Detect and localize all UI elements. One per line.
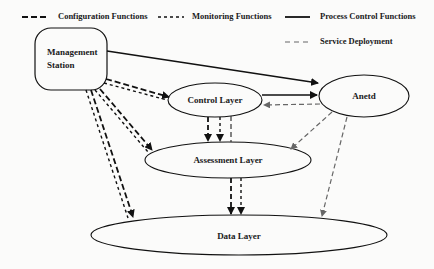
edge-mgmt-to-assessment-config [100, 89, 152, 150]
edge-mgmt-to-anetd [107, 51, 318, 83]
edge-mgmt-to-control-config [106, 79, 169, 97]
anetd-label: Anetd [352, 91, 376, 101]
assessment-layer-label: Assessment Layer [193, 155, 262, 165]
management-station-label-line2: Station [47, 59, 98, 72]
legend-service-deployment-label: Service Deployment [320, 36, 392, 46]
legend-configuration-label: Configuration Functions [58, 11, 148, 21]
edge-mgmt-to-control-monitor [104, 83, 167, 100]
management-station-label: Management Station [47, 46, 98, 72]
edge-anetd-to-assessment [291, 112, 332, 149]
control-layer-label: Control Layer [187, 95, 242, 105]
legend-monitoring-label: Monitoring Functions [192, 11, 272, 21]
edge-anetd-to-control [264, 104, 320, 105]
management-station-label-line1: Management [47, 46, 98, 59]
edge-mgmt-to-data-monitor [86, 90, 128, 218]
legend-process-control-label: Process Control Functions [320, 11, 416, 21]
data-layer-label: Data Layer [217, 231, 261, 241]
edge-anetd-to-data [322, 117, 347, 216]
